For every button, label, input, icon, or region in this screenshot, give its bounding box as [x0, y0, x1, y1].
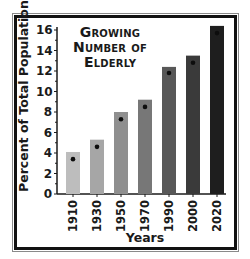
y-tick-label: 10: [36, 86, 52, 98]
y-tick-label: 8: [36, 106, 52, 118]
y-tick-label: 2: [36, 168, 52, 180]
dot-marker-1930: [95, 145, 100, 150]
y-tick-label: 14: [36, 45, 52, 57]
y-tick-label: 12: [36, 65, 52, 77]
y-tick-label: 6: [36, 127, 52, 139]
chart-title: Growing Number of Elderly: [70, 25, 150, 70]
dot-marker-1970: [143, 105, 148, 110]
dot-marker-1950: [119, 117, 124, 122]
y-tick-label: 4: [36, 147, 52, 159]
x-tick-label: 2020: [202, 201, 232, 231]
bar-1950: [114, 112, 128, 194]
dot-marker-2000: [191, 61, 196, 66]
bar-2020: [210, 26, 224, 194]
bar-1970: [138, 100, 152, 194]
x-axis-label: Years: [115, 230, 175, 245]
dot-marker-1990: [167, 71, 172, 76]
dot-marker-1910: [71, 157, 76, 162]
y-axis-label: Percent of Total Population: [16, 32, 31, 192]
title-line-2: Number of: [70, 40, 150, 55]
bar-2000: [186, 56, 200, 194]
dot-marker-2020: [215, 31, 220, 36]
title-line-3: Elderly: [70, 55, 150, 70]
y-tick-label: 16: [36, 24, 52, 36]
bar-chart: Growing Number of Elderly Percent of Tot…: [0, 0, 250, 259]
bar-1990: [162, 67, 176, 194]
title-line-1: Growing: [70, 25, 150, 40]
y-tick-label: 0: [36, 188, 52, 200]
